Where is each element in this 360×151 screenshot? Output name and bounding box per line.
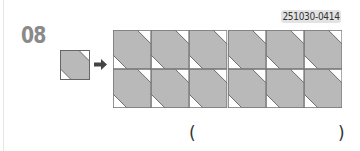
diagonal-band-tile-icon xyxy=(113,69,151,108)
diagonal-band-tile-icon xyxy=(228,69,266,108)
diagonal-band-tile-icon xyxy=(189,30,227,69)
tile-pattern-grid xyxy=(113,30,342,108)
diagonal-band-tile-icon xyxy=(228,30,266,69)
diagonal-band-tile-icon xyxy=(189,69,227,108)
diagonal-band-tile-icon xyxy=(60,50,90,80)
problem-number: 08 xyxy=(21,22,46,48)
diagonal-band-tile-icon xyxy=(113,30,151,69)
diagonal-band-tile-icon xyxy=(304,30,342,69)
margin-rule xyxy=(3,0,4,151)
problem-code-badge: 251030-0414 xyxy=(281,10,341,23)
answer-paren-open: ( xyxy=(189,125,196,142)
answer-paren-close: ) xyxy=(338,125,345,142)
diagonal-band-tile-icon xyxy=(304,69,342,108)
right-arrow-icon xyxy=(94,59,107,70)
answer-blank[interactable] xyxy=(200,124,334,144)
diagonal-band-tile-icon xyxy=(151,30,189,69)
diagonal-band-tile-icon xyxy=(266,30,304,69)
diagonal-band-tile-icon xyxy=(151,69,189,108)
diagonal-band-tile-icon xyxy=(266,69,304,108)
